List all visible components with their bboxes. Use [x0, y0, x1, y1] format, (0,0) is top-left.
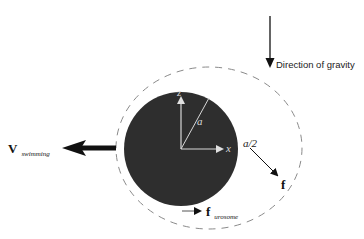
velocity-arrow-icon — [62, 140, 116, 156]
radius-label: a — [197, 115, 203, 127]
velocity-sub: swimming — [21, 150, 50, 158]
gravity-arrow-icon — [266, 16, 275, 68]
gap-label: a/2 — [243, 137, 258, 149]
swimming-diagram: Direction of gravity z a x a/2 f f uroso… — [0, 0, 364, 239]
velocity-main: V — [8, 141, 18, 156]
velocity-label: V swimming — [8, 139, 50, 158]
axis-z-label: z — [176, 86, 182, 98]
urosome-force-label: f urosome — [206, 202, 238, 221]
force-label: f — [281, 177, 286, 192]
urosome-force-sub: urosome — [214, 213, 238, 221]
urosome-force-main: f — [206, 204, 211, 219]
gravity-label: Direction of gravity — [276, 59, 355, 70]
force-arrow-icon — [250, 148, 277, 175]
axis-x-label: x — [225, 142, 231, 154]
